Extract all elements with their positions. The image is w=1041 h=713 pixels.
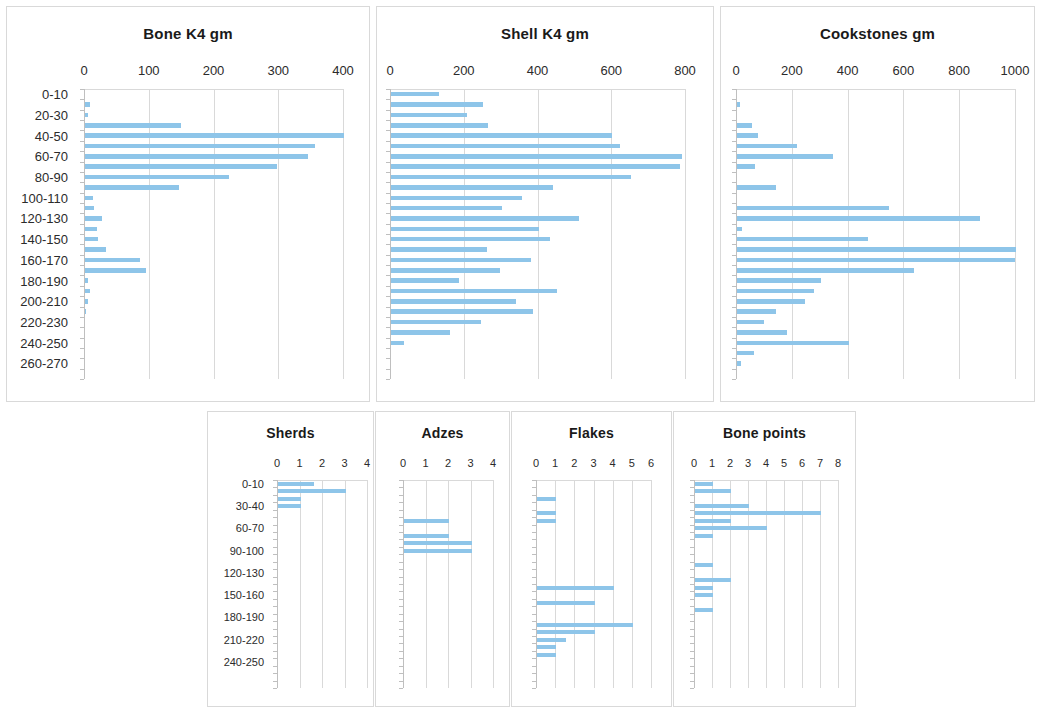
bar xyxy=(85,113,88,118)
y-tick-mark xyxy=(386,244,390,245)
y-tick-mark xyxy=(386,151,390,152)
bar xyxy=(391,206,502,211)
bar xyxy=(85,175,229,180)
bar xyxy=(537,653,556,657)
y-tick-mark xyxy=(690,517,694,518)
y-tick-mark xyxy=(273,673,277,674)
bar xyxy=(85,196,93,201)
y-tick-mark xyxy=(532,569,536,570)
bar xyxy=(391,227,539,232)
y-tick-mark xyxy=(532,510,536,511)
bar xyxy=(391,216,579,221)
bar xyxy=(85,289,90,294)
y-tick-mark xyxy=(399,577,403,578)
y-tick-mark xyxy=(732,151,736,152)
x-tick-label: 200 xyxy=(203,63,225,78)
bar xyxy=(85,247,106,252)
bar xyxy=(537,601,595,605)
y-tick-mark xyxy=(732,89,736,90)
chart-title-bone-k4: Bone K4 gm xyxy=(7,25,369,42)
y-tick-mark xyxy=(732,110,736,111)
y-tick-mark xyxy=(273,599,277,600)
bar xyxy=(85,278,88,283)
y-tick-mark xyxy=(80,203,84,204)
y-tick-mark xyxy=(386,348,390,349)
x-tick-label: 4 xyxy=(610,457,616,469)
bar xyxy=(404,549,472,553)
y-tick-mark xyxy=(532,480,536,481)
y-tick-label: 210-220 xyxy=(224,634,272,646)
y-tick-mark xyxy=(732,317,736,318)
gridline-vertical xyxy=(426,480,427,688)
bar xyxy=(737,185,776,190)
bar xyxy=(85,258,140,263)
x-tick-label: 200 xyxy=(781,63,803,78)
y-tick-mark xyxy=(690,621,694,622)
x-tick-label: 0 xyxy=(732,63,739,78)
bar xyxy=(278,504,301,508)
bar xyxy=(85,216,102,221)
bar xyxy=(391,341,404,346)
x-axis-labels-flakes: 0123456 xyxy=(536,457,651,471)
y-tick-mark xyxy=(732,327,736,328)
x-axis-labels-bone-k4: 0100200300400 xyxy=(84,63,343,79)
y-tick-mark xyxy=(399,510,403,511)
y-tick-label: 260-270 xyxy=(20,356,77,371)
bar xyxy=(85,144,315,149)
bar xyxy=(695,578,731,582)
gridline-vertical xyxy=(471,480,472,688)
y-tick-mark xyxy=(273,487,277,488)
y-tick-mark xyxy=(399,658,403,659)
y-tick-mark xyxy=(690,606,694,607)
x-axis-labels-sherds: 01234 xyxy=(277,457,367,471)
y-tick-mark xyxy=(80,348,84,349)
y-tick-mark xyxy=(273,577,277,578)
y-tick-mark xyxy=(273,606,277,607)
bar xyxy=(737,258,1015,263)
x-tick-label: 400 xyxy=(527,63,549,78)
x-tick-label: 0 xyxy=(386,63,393,78)
y-tick-mark xyxy=(80,141,84,142)
y-tick-mark xyxy=(399,606,403,607)
y-tick-mark xyxy=(386,213,390,214)
y-tick-label: 0-10 xyxy=(42,87,77,102)
x-tick-label: 4 xyxy=(490,457,496,469)
y-tick-mark xyxy=(273,502,277,503)
y-tick-mark xyxy=(532,651,536,652)
bar xyxy=(391,299,516,304)
y-tick-mark xyxy=(273,643,277,644)
x-tick-label: 0 xyxy=(691,457,697,469)
y-tick-mark xyxy=(386,224,390,225)
x-tick-label: 1000 xyxy=(1001,63,1030,78)
y-tick-mark xyxy=(80,317,84,318)
y-tick-mark xyxy=(690,584,694,585)
y-tick-mark xyxy=(732,338,736,339)
x-tick-label: 600 xyxy=(600,63,622,78)
bar xyxy=(737,320,764,325)
y-tick-label: 60-70 xyxy=(236,522,272,534)
y-tick-mark xyxy=(80,369,84,370)
y-tick-mark xyxy=(690,547,694,548)
bar xyxy=(278,489,346,493)
y-tick-mark xyxy=(386,275,390,276)
panel-shell-k4: Shell K4 gm 0200400600800 xyxy=(376,6,714,402)
y-tick-mark xyxy=(399,643,403,644)
y-tick-mark xyxy=(532,554,536,555)
y-tick-mark xyxy=(399,569,403,570)
y-tick-mark xyxy=(690,525,694,526)
bar xyxy=(391,278,459,283)
y-tick-mark xyxy=(732,275,736,276)
y-tick-mark xyxy=(80,286,84,287)
y-tick-mark xyxy=(80,224,84,225)
y-axis-labels-sherds: 0-1030-4060-7090-100120-130150-160180-19… xyxy=(208,480,272,688)
y-tick-mark xyxy=(690,562,694,563)
y-tick-mark xyxy=(399,651,403,652)
bar xyxy=(404,519,449,523)
y-tick-mark xyxy=(399,688,403,689)
plot-area-bone-points xyxy=(694,480,838,688)
y-tick-mark xyxy=(386,369,390,370)
y-tick-mark xyxy=(532,643,536,644)
x-axis-labels-bone-points: 012345678 xyxy=(694,457,838,471)
bar xyxy=(391,175,631,180)
gridline-vertical xyxy=(300,480,301,688)
